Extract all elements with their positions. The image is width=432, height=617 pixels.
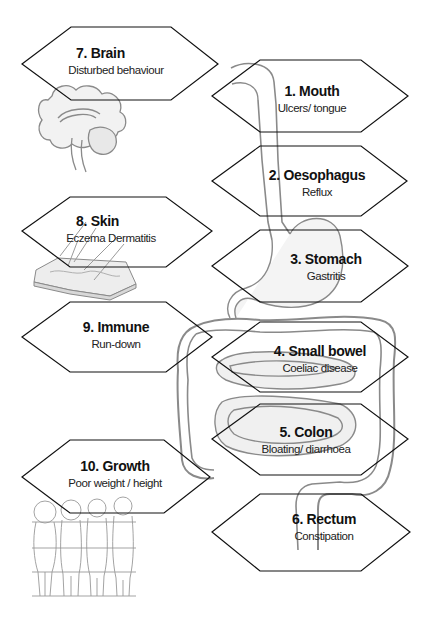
label-mouth: 1. Mouth Ulcers/ tongue [262,84,362,115]
skin-title: 8. Skin [66,214,156,228]
label-stomach: 3. Stomach Gastritis [276,252,376,283]
label-brain: 7. Brain Disturbed behaviour [66,46,166,77]
label-small-bowel: 4. Small bowel Coeliac disease [265,344,375,375]
immune-title: 9. Immune [66,320,166,334]
immune-subtitle: Run-down [66,339,166,351]
colon-title: 5. Colon [256,425,356,439]
label-skin: 8. Skin Eczema Dermatitis [66,214,156,245]
label-immune: 9. Immune Run-down [66,320,166,351]
stomach-subtitle: Gastritis [276,271,376,283]
small-bowel-title: 4. Small bowel [265,344,375,358]
rectum-title: 6. Rectum [284,512,364,526]
growth-title: 10. Growth [60,459,170,473]
mouth-subtitle: Ulcers/ tongue [262,103,362,115]
rectum-subtitle: Constipation [284,531,364,543]
colon-subtitle: Bloating/ diarrhoea [256,444,356,456]
children-growth-illustration [32,497,136,596]
label-growth: 10. Growth Poor weight / height [60,459,170,490]
label-colon: 5. Colon Bloating/ diarrhoea [256,425,356,456]
growth-subtitle: Poor weight / height [60,478,170,490]
small-bowel-subtitle: Coeliac disease [265,363,375,375]
oesophagus-subtitle: Reflux [262,187,372,199]
diagram-canvas [0,0,432,617]
label-rectum: 6. Rectum Constipation [284,512,364,543]
mouth-title: 1. Mouth [262,84,362,98]
label-oesophagus: 2. Oesophagus Reflux [262,168,372,199]
stomach-title: 3. Stomach [276,252,376,266]
brain-title: 7. Brain [66,46,166,60]
skin-subtitle: Eczema Dermatitis [66,233,156,245]
brain-subtitle: Disturbed behaviour [66,65,166,77]
brain-illustration [39,86,126,172]
oesophagus-title: 2. Oesophagus [262,168,372,182]
